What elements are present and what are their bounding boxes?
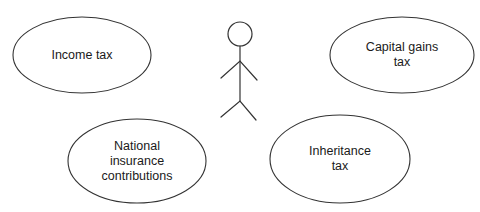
actor-arms [221, 61, 257, 80]
use-case-diagram [0, 0, 480, 212]
actor-legs [221, 101, 256, 120]
actor-head [228, 22, 252, 46]
actor-stick-figure [221, 22, 257, 120]
use-case-label-inheritance-tax: Inheritance tax [309, 144, 371, 174]
use-case-label-national-insurance-contributions: National insurance contributions [102, 139, 173, 184]
use-case-label-income-tax: Income tax [51, 48, 112, 63]
use-case-label-capital-gains-tax: Capital gains tax [366, 40, 438, 70]
